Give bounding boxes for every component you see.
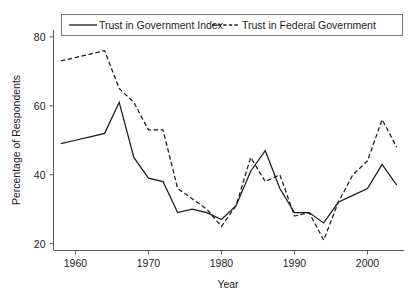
y-tick-label: 40	[34, 169, 46, 181]
legend-label-1: Trust in Federal Government	[242, 19, 376, 31]
legend: Trust in Government Index Trust in Feder…	[62, 15, 403, 36]
x-tick-label: 1980	[210, 257, 234, 269]
y-axis-title: Percentage of Respondents	[10, 75, 22, 205]
y-tick-label: 60	[34, 100, 46, 112]
trust-in-government-line-chart: 20406080 19601970198019902000 Percentage…	[0, 0, 410, 302]
y-axis-tick-labels: 20406080	[34, 31, 46, 250]
x-tick-label: 1970	[137, 257, 161, 269]
x-axis-title: Year	[217, 278, 239, 290]
x-tick-label: 2000	[356, 257, 380, 269]
series-line-trust-in-government-index	[61, 102, 397, 223]
x-tick-label: 1990	[283, 257, 307, 269]
axis-group	[50, 30, 405, 255]
x-tick-label: 1960	[64, 257, 88, 269]
y-axis-ticks	[50, 37, 54, 244]
legend-label-0: Trust in Government Index	[99, 19, 224, 31]
y-tick-label: 80	[34, 31, 46, 43]
y-tick-label: 20	[34, 238, 46, 250]
series-line-trust-in-federal-government	[61, 51, 397, 240]
series-group	[61, 51, 397, 240]
x-axis-tick-labels: 19601970198019902000	[64, 257, 380, 269]
chart-canvas: 20406080 19601970198019902000 Percentage…	[0, 0, 410, 302]
x-axis-ticks	[75, 251, 367, 255]
